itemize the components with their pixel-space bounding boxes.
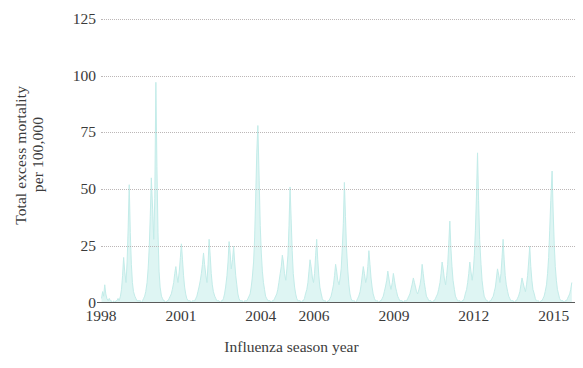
x-axis-title: Influenza season year xyxy=(0,338,583,356)
x-axis-line xyxy=(97,302,575,303)
gridline-50 xyxy=(101,189,575,190)
x-tick-label-1998: 1998 xyxy=(86,308,117,324)
x-tick-label-2001: 2001 xyxy=(165,308,196,324)
gridline-25 xyxy=(101,246,575,247)
excess-mortality-series xyxy=(101,5,575,303)
excess-mortality-chart: Total excess mortality per 100,000 02550… xyxy=(0,0,583,368)
y-tick-label-50: 50 xyxy=(50,181,96,197)
y-tick-label-125: 125 xyxy=(50,11,96,27)
gridline-125 xyxy=(101,19,575,20)
y-tick-label-75: 75 xyxy=(50,124,96,140)
x-tick-label-2009: 2009 xyxy=(378,308,409,324)
y-tick-label-100: 100 xyxy=(50,68,96,84)
x-tick-label-2006: 2006 xyxy=(299,308,330,324)
y-axis-title-line1: Total excess mortality xyxy=(13,86,29,225)
series-line xyxy=(102,82,572,303)
plot-area xyxy=(101,5,575,303)
y-axis-tick-labels: 0255075100125 xyxy=(50,0,96,320)
y-axis-title-line2: per 100,000 xyxy=(30,117,46,192)
x-tick-label-2004: 2004 xyxy=(245,308,276,324)
y-tick-label-25: 25 xyxy=(50,238,96,254)
gridline-100 xyxy=(101,76,575,77)
x-tick-label-2015: 2015 xyxy=(538,308,569,324)
gridline-75 xyxy=(101,132,575,133)
x-tick-label-2012: 2012 xyxy=(458,308,489,324)
x-axis-tick-labels: 1998200120042006200920122015 xyxy=(0,308,583,330)
